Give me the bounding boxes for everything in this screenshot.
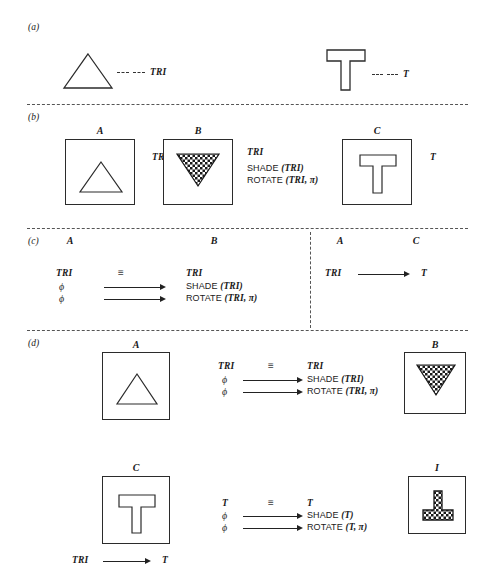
mapping-arrow-head	[297, 513, 303, 519]
footnote-to: T	[162, 555, 168, 565]
mapping-arrow-line	[243, 528, 299, 529]
mapping-arrow-line	[243, 516, 299, 517]
annotation-b-tri-2: TRI	[247, 147, 263, 157]
column-letter-c-right-a: A	[328, 235, 352, 246]
separator-b-c	[27, 228, 468, 229]
phi-symbol: ϕ	[59, 281, 64, 292]
op-name-rotate: ROTATE	[247, 175, 283, 185]
footnote-arrow-head	[145, 558, 151, 564]
op-arg-shade: (TRI)	[341, 374, 364, 384]
separator-a-b	[27, 104, 468, 105]
mapping-d1-to-3: ROTATE (TRI, π)	[307, 386, 378, 396]
box-letter-d-a: A	[102, 339, 170, 350]
mapping-d1-to-1: TRI	[307, 361, 323, 371]
footnote-from: TRI	[72, 555, 88, 565]
equiv-symbol: ≡	[268, 497, 274, 508]
op-arg-rotate: (TRI, π)	[345, 386, 378, 396]
box-letter-b-c: C	[342, 125, 412, 136]
leader-dash-t-2	[387, 74, 398, 75]
op-arg-shade: (TRI)	[281, 163, 304, 173]
box-letter-b-a: A	[65, 125, 135, 136]
mapping-c-to-3: ROTATE (TRI, π)	[186, 293, 257, 303]
label-t-a: T	[403, 69, 409, 79]
leader-dash-tri-1	[117, 72, 129, 73]
op-name-rotate: ROTATE	[307, 522, 343, 532]
box-letter-b-b: B	[163, 125, 233, 136]
separator-c-vertical	[310, 232, 311, 328]
triangle-inverted-checkered-shape	[415, 363, 457, 397]
mapping-arrow-line	[104, 299, 162, 300]
mapping-arrow-head	[297, 525, 303, 531]
mapping-c-to-1: TRI	[186, 268, 202, 278]
panel-label-c: (c)	[28, 236, 39, 246]
op-arg-shade: (T)	[341, 510, 353, 520]
column-letter-c-left-b: B	[202, 235, 226, 246]
mapping-arrow-line	[104, 287, 162, 288]
label-tri-a: TRI	[150, 67, 166, 77]
mapping-arrow-head	[160, 284, 166, 290]
mapping-c-right-from: TRI	[325, 268, 341, 278]
mapping-d1-to-2: SHADE (TRI)	[307, 374, 364, 384]
box-letter-d-i: I	[408, 462, 466, 473]
op-arg-rotate: (TRI, π)	[224, 293, 257, 303]
mapping-d2-from-1: T	[222, 498, 228, 508]
mapping-arrow-head	[404, 271, 410, 277]
mapping-arrow-line	[243, 380, 299, 381]
tee-outline-shape	[325, 48, 367, 92]
phi-symbol: ϕ	[222, 374, 227, 385]
triangle-inverted-checkered-shape	[175, 152, 221, 188]
op-name-rotate: ROTATE	[307, 386, 343, 396]
column-letter-c-right-c: C	[404, 235, 428, 246]
triangle-outline-shape	[78, 160, 124, 194]
tee-inverted-checkered-shape	[421, 489, 455, 523]
mapping-c-from-1: TRI	[56, 268, 72, 278]
mapping-arrow-head	[297, 377, 303, 383]
op-name-shade: SHADE	[186, 281, 218, 291]
triangle-outline-shape	[115, 372, 159, 406]
op-name-shade: SHADE	[307, 374, 339, 384]
phi-symbol: ϕ	[59, 293, 64, 304]
op-name-rotate: ROTATE	[186, 293, 222, 303]
tee-outline-shape	[117, 493, 157, 535]
phi-symbol: ϕ	[222, 386, 227, 397]
mapping-d2-to-2: SHADE (T)	[307, 510, 354, 520]
op-arg-rotate: (T, π)	[345, 522, 367, 532]
op-name-shade: SHADE	[307, 510, 339, 520]
panel-label-b: (b)	[28, 112, 39, 122]
annotation-b-rotate: ROTATE (TRI, π)	[247, 175, 318, 185]
op-arg-shade: (TRI)	[220, 281, 243, 291]
mapping-d2-to-3: ROTATE (T, π)	[307, 522, 367, 532]
column-letter-c-left-a: A	[58, 235, 82, 246]
figure-canvas: (a) TRI T (b) A TRI B	[0, 0, 494, 581]
annotation-b-shade: SHADE (TRI)	[247, 163, 304, 173]
separator-c-d	[27, 330, 468, 331]
leader-dash-t-1	[372, 74, 383, 75]
leader-dash-tri-2	[133, 72, 145, 73]
mapping-arrow-head	[160, 296, 166, 302]
panel-label-a: (a)	[28, 22, 39, 32]
op-arg-rotate: (TRI, π)	[285, 175, 318, 185]
mapping-c-to-2: SHADE (TRI)	[186, 281, 243, 291]
mapping-d1-from-1: TRI	[218, 361, 234, 371]
mapping-arrow-head	[297, 389, 303, 395]
equiv-symbol: ≡	[268, 360, 274, 371]
mapping-d2-to-1: T	[307, 498, 313, 508]
mapping-arrow-line	[358, 274, 406, 275]
tee-outline-shape	[358, 153, 398, 195]
phi-symbol: ϕ	[222, 522, 227, 533]
box-letter-d-c: C	[102, 462, 170, 473]
footnote-arrow-line	[103, 561, 147, 562]
box-letter-d-b: B	[404, 339, 466, 350]
mapping-arrow-line	[243, 392, 299, 393]
annotation-b-t: T	[430, 152, 436, 162]
mapping-c-right-to: T	[421, 268, 427, 278]
equiv-symbol: ≡	[118, 267, 124, 278]
panel-label-d: (d)	[28, 338, 39, 348]
phi-symbol: ϕ	[222, 510, 227, 521]
triangle-outline-shape	[62, 52, 114, 90]
op-name-shade: SHADE	[247, 163, 279, 173]
